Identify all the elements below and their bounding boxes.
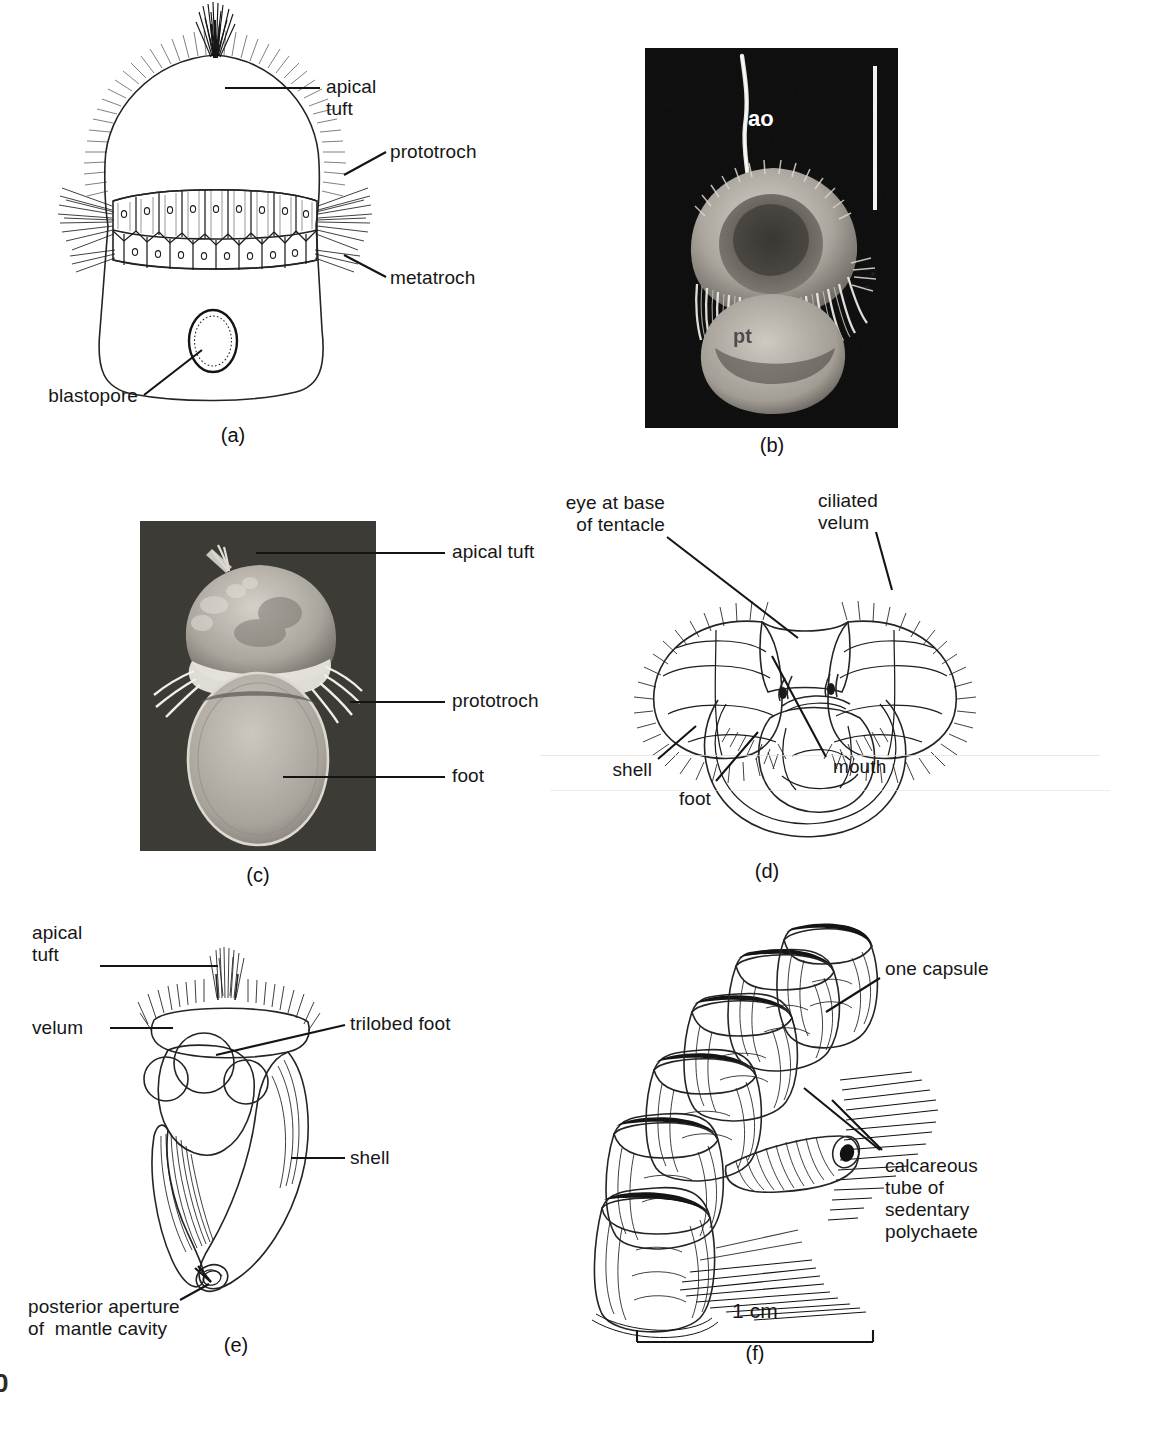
scale-bar-label: 1 cm bbox=[635, 1300, 875, 1322]
leader-posterior-aperture-b bbox=[198, 1266, 211, 1282]
caption-a: (a) bbox=[203, 424, 263, 446]
panel-a: apical tuft prototroch metatroch blastop… bbox=[0, 0, 520, 460]
label-shell: shell bbox=[350, 1147, 390, 1169]
leader-ciliated-velum bbox=[876, 532, 892, 590]
panel-e-leaders bbox=[20, 900, 490, 1360]
panel-d: eye at base of tentacle ciliated velum s… bbox=[530, 470, 1130, 890]
label-mouth: mouth bbox=[833, 756, 886, 778]
label-one-capsule: one capsule bbox=[885, 958, 989, 980]
panel-e: apical tuft velum trilobed foot shell po… bbox=[20, 900, 490, 1360]
leader-trilobed-foot bbox=[216, 1025, 345, 1055]
label-metatroch: metatroch bbox=[390, 267, 475, 289]
leader-metatroch bbox=[344, 255, 386, 277]
caption-b: (b) bbox=[742, 434, 802, 456]
label-ciliated-velum: ciliated velum bbox=[818, 490, 878, 534]
label-posterior-aperture-of-mantle-cavity: posterior aperture of mantle cavity bbox=[28, 1296, 180, 1340]
caption-f: (f) bbox=[725, 1342, 785, 1364]
leader-shell bbox=[658, 726, 696, 759]
panel-f: one capsule calcareous tube of sedentary… bbox=[540, 900, 1149, 1370]
label-calcareous-tube-of-sedentary-polychaete: calcareous tube of sedentary polychaete bbox=[885, 1155, 978, 1243]
leader-calcareous-tube-main bbox=[804, 1088, 880, 1150]
vertical-scale-bar bbox=[873, 66, 877, 210]
label-blastopore: blastopore bbox=[0, 385, 138, 407]
panel-c: apical tuft prototroch foot (c) bbox=[100, 480, 570, 900]
label-prototroch: prototroch bbox=[452, 690, 539, 712]
label-velum: velum bbox=[32, 1017, 83, 1039]
leader-calcareous-tube bbox=[832, 1100, 882, 1150]
leader-blastopore bbox=[144, 350, 202, 395]
panel-b-micrograph: ao pt bbox=[645, 48, 898, 428]
leader-eye-at-base-of-tentacle bbox=[667, 537, 798, 638]
figure-plate: apical tuft prototroch metatroch blastop… bbox=[0, 0, 1149, 1429]
label-apical-tuft: apical tuft bbox=[326, 76, 376, 120]
label-apical-tuft: apical tuft bbox=[32, 922, 82, 966]
label-foot: foot bbox=[452, 765, 484, 787]
ao-label: ao bbox=[748, 106, 774, 132]
label-shell: shell bbox=[530, 759, 652, 781]
leader-one-capsule bbox=[826, 978, 880, 1012]
label-foot: foot bbox=[530, 788, 711, 810]
caption-c: (c) bbox=[228, 864, 288, 886]
panel-b-specimen bbox=[645, 48, 898, 428]
panel-b: ao pt (b) bbox=[600, 10, 1000, 460]
label-apical-tuft: apical tuft bbox=[452, 541, 534, 563]
label-prototroch: prototroch bbox=[390, 141, 477, 163]
leader-prototroch bbox=[344, 152, 386, 175]
leader-mouth bbox=[772, 656, 826, 757]
caption-d: (d) bbox=[737, 860, 797, 882]
label-eye-at-base-of-tentacle: eye at base of tentacle bbox=[530, 492, 665, 536]
page-number: 0 bbox=[0, 1368, 8, 1399]
leader-posterior-aperture-line bbox=[180, 1284, 209, 1300]
scale-bar-1cm-group: 1 cm bbox=[635, 1300, 875, 1322]
pt-label: pt bbox=[733, 325, 752, 348]
leader-foot bbox=[716, 732, 758, 781]
caption-e: (e) bbox=[206, 1334, 266, 1356]
label-trilobed-foot: trilobed foot bbox=[350, 1013, 451, 1035]
